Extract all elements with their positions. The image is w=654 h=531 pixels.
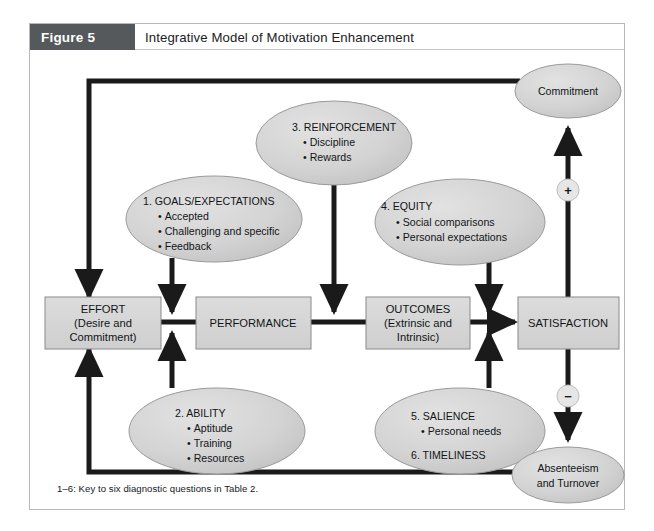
box-label: (Extrinsic and <box>384 317 452 329</box>
bullet-glyph: • <box>187 437 191 449</box>
chain-box-performance[interactable]: PERFORMANCE <box>196 297 311 349</box>
box-label: Commitment) <box>69 331 136 343</box>
chain-box-effort[interactable]: EFFORT (Desire and Commitment) <box>45 297 161 349</box>
factor-extra: 6. TIMELINESS <box>411 449 486 461</box>
factor-title: 1. GOALS/EXPECTATIONS <box>143 195 274 207</box>
factor-item: •Rewards <box>303 151 352 163</box>
factor-item: •Personal needs <box>421 425 501 437</box>
box-label: OUTCOMES <box>386 303 451 315</box>
factor-item: •Discipline <box>303 136 355 148</box>
outcome-label: Commitment <box>538 85 598 97</box>
sign-badge-negative: − <box>557 385 579 407</box>
factor-item-text: Challenging and specific <box>165 225 281 237</box>
factor-item: •Social comparisons <box>396 216 495 228</box>
factor-item-text: Feedback <box>165 240 212 252</box>
factor-oval-ability[interactable]: 2. ABILITY •Aptitude •Training •Resource… <box>129 388 305 474</box>
factor-oval-goals[interactable]: 1. GOALS/EXPECTATIONS •Accepted •Challen… <box>126 176 302 262</box>
factor-oval-reinforcement[interactable]: 3. REINFORCEMENT •Discipline •Rewards <box>256 101 412 185</box>
outcome-oval-absenteeism[interactable]: Absenteeism and Turnover <box>512 447 624 503</box>
factor-item-text: Resources <box>194 452 245 464</box>
factor-title: 4. EQUITY <box>381 200 432 212</box>
box-label: SATISFACTION <box>528 317 608 329</box>
bullet-glyph: • <box>187 422 191 434</box>
factor-item: •Training <box>187 437 232 449</box>
bullet-glyph: • <box>303 151 307 163</box>
bullet-glyph: • <box>396 216 400 228</box>
bullet-glyph: • <box>187 452 191 464</box>
factor-item: •Challenging and specific <box>158 225 280 237</box>
factor-item: •Feedback <box>158 240 212 252</box>
factor-item-text: Personal needs <box>428 425 502 437</box>
factor-item-text: Rewards <box>310 151 352 163</box>
figure-caption: 1–6: Key to six diagnostic questions in … <box>57 483 258 494</box>
bullet-glyph: • <box>421 425 425 437</box>
factor-item-text: Social comparisons <box>403 216 495 228</box>
factor-item-text: Aptitude <box>194 422 233 434</box>
factor-title: 5. SALIENCE <box>411 410 475 422</box>
factor-title: 3. REINFORCEMENT <box>292 121 397 133</box>
bullet-glyph: • <box>158 210 162 222</box>
bullet-glyph: • <box>396 231 400 243</box>
box-label: PERFORMANCE <box>209 317 296 329</box>
chain-box-satisfaction[interactable]: SATISFACTION <box>518 297 619 349</box>
outcome-oval-commitment[interactable]: Commitment <box>515 64 621 118</box>
factor-item: •Aptitude <box>187 422 233 434</box>
sign-badge-positive: + <box>557 179 579 201</box>
box-label: Intrinsic) <box>397 331 440 343</box>
factor-item-text: Training <box>194 437 232 449</box>
factor-item-text: Personal expectations <box>403 231 507 243</box>
bullet-glyph: • <box>158 240 162 252</box>
factor-item: •Personal expectations <box>396 231 507 243</box>
factor-oval-equity[interactable]: 4. EQUITY •Social comparisons •Personal … <box>375 179 545 265</box>
oval-shape <box>512 447 624 503</box>
bullet-glyph: • <box>158 225 162 237</box>
box-label: EFFORT <box>81 303 126 315</box>
outcome-label: Absenteeism <box>537 462 598 474</box>
factor-item: •Accepted <box>158 210 209 222</box>
factor-item-text: Accepted <box>165 210 209 222</box>
sign-symbol: + <box>564 183 572 198</box>
sign-symbol: − <box>564 389 572 404</box>
factor-item-text: Discipline <box>310 136 355 148</box>
diagram-canvas: 3. REINFORCEMENT •Discipline •Rewards 1.… <box>0 0 654 531</box>
bullet-glyph: • <box>303 136 307 148</box>
figure-panel: Figure 5 Integrative Model of Motivation… <box>0 0 654 531</box>
factor-item: •Resources <box>187 452 244 464</box>
factor-title: 2. ABILITY <box>175 407 226 419</box>
box-label: (Desire and <box>74 317 132 329</box>
oval-shape <box>126 176 302 262</box>
outcome-label: and Turnover <box>537 477 600 489</box>
chain-box-outcomes[interactable]: OUTCOMES (Extrinsic and Intrinsic) <box>366 297 470 349</box>
